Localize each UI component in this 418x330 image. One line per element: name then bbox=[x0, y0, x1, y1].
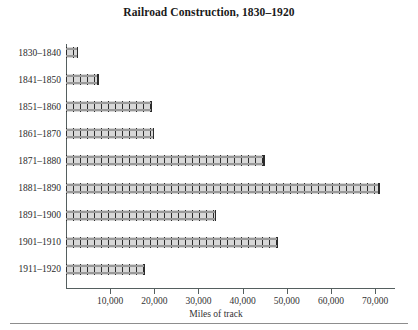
x-axis-line bbox=[66, 288, 395, 289]
y-axis-tick-label: 1861–1870 bbox=[0, 129, 61, 139]
y-axis-tick-label: 1851–1860 bbox=[0, 102, 61, 112]
x-axis-tick bbox=[154, 289, 155, 294]
x-axis-tick bbox=[375, 289, 376, 294]
x-axis-tick bbox=[198, 289, 199, 294]
y-axis-tick-label: 1901–1910 bbox=[0, 237, 61, 247]
x-axis-tick bbox=[287, 289, 288, 294]
bar bbox=[66, 264, 145, 275]
y-axis-tick-label: 1871–1880 bbox=[0, 156, 61, 166]
y-axis-tick-label: 1830–1840 bbox=[0, 48, 61, 58]
y-axis-tick-label: 1911–1920 bbox=[0, 264, 61, 274]
y-axis-tick-label: 1881–1890 bbox=[0, 183, 61, 193]
chart-title: Railroad Construction, 1830–1920 bbox=[0, 6, 418, 18]
footer-divider bbox=[10, 323, 408, 324]
bar bbox=[66, 237, 278, 248]
y-axis-tick-label: 1891–1900 bbox=[0, 210, 61, 220]
x-axis-tick-label: 70,000 bbox=[345, 296, 405, 306]
y-axis-tick-label: 1841–1850 bbox=[0, 75, 61, 85]
bar bbox=[66, 128, 154, 139]
bar bbox=[66, 210, 216, 221]
bar bbox=[66, 183, 380, 194]
bar bbox=[66, 74, 99, 85]
x-axis-tick bbox=[110, 289, 111, 294]
bar bbox=[66, 155, 265, 166]
x-axis-title: Miles of track bbox=[66, 309, 366, 319]
x-axis-tick bbox=[243, 289, 244, 294]
chart-figure: Railroad Construction, 1830–1920 1830–18… bbox=[0, 0, 418, 330]
x-axis-tick bbox=[331, 289, 332, 294]
bar bbox=[66, 101, 152, 112]
bar bbox=[66, 47, 78, 58]
